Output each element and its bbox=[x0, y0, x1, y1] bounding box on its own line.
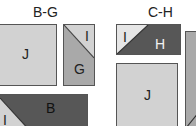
piece-label-b: B bbox=[46, 101, 55, 115]
group-title-c-h: C-H bbox=[148, 5, 173, 19]
piece-j-left: J bbox=[0, 24, 57, 86]
piece-label-g: G bbox=[74, 62, 85, 76]
piece-label-h: H bbox=[155, 37, 165, 51]
piece-label-i: I bbox=[85, 29, 89, 43]
piece-label-j: J bbox=[144, 88, 151, 102]
diagonal-split-icon bbox=[186, 32, 196, 126]
piece-g-i: I G bbox=[63, 24, 95, 86]
piece-i-h: I H bbox=[116, 24, 181, 55]
diagonal-split-icon bbox=[0, 95, 87, 126]
group-title-b-g: B-G bbox=[33, 5, 58, 19]
piece-label-i: I bbox=[3, 113, 7, 126]
piece-label-j: J bbox=[22, 47, 29, 61]
piece-partial-right bbox=[185, 31, 196, 126]
piece-label-i: I bbox=[123, 30, 127, 44]
piece-j-right: J bbox=[116, 63, 178, 126]
piece-b-i: I B bbox=[0, 94, 88, 126]
